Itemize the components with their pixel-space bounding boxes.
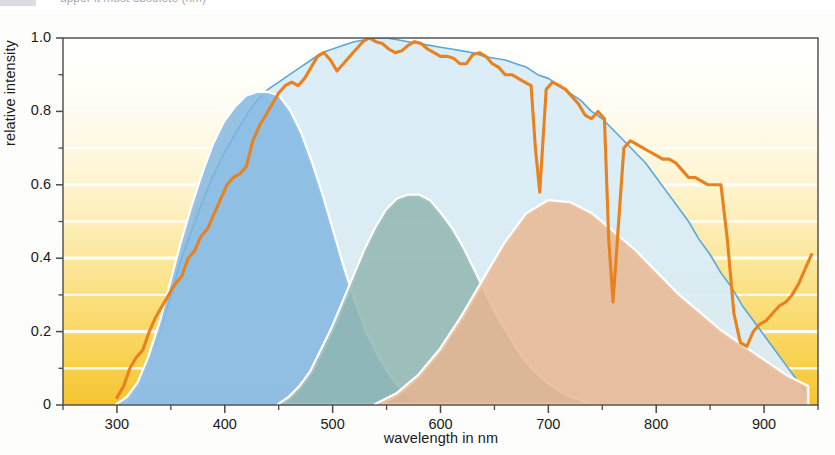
figure-panel: upper it must obsolete (nm) relative int… (0, 0, 835, 455)
spectral-response-plot (0, 0, 835, 455)
